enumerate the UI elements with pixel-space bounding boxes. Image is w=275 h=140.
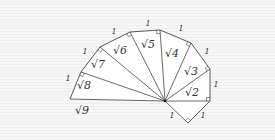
sqrt-label-3: √3 bbox=[184, 65, 198, 78]
sqrt-label-2: √2 bbox=[185, 86, 199, 99]
sqrt-label-7: √7 bbox=[91, 58, 105, 71]
spiral-of-theodorus-figure: √2√3√4√5√6√7√8√9111111111 bbox=[0, 0, 275, 140]
sqrt-label-8: √8 bbox=[77, 79, 91, 92]
unit-length-label-8: 1 bbox=[65, 74, 70, 83]
unit-length-label-3: 1 bbox=[204, 47, 209, 56]
unit-length-label-5: 1 bbox=[145, 19, 150, 28]
unit-length-label-1: 1 bbox=[200, 111, 205, 120]
unit-length-label-7: 1 bbox=[82, 47, 87, 56]
spiral-diagram: √2√3√4√5√6√7√8√9111111111 bbox=[0, 0, 275, 140]
unit-length-label-6: 1 bbox=[111, 27, 116, 36]
unit-length-label-4: 1 bbox=[178, 24, 183, 33]
sqrt-label-9: √9 bbox=[75, 104, 89, 117]
center-point bbox=[164, 100, 167, 103]
sqrt-label-6: √6 bbox=[113, 44, 127, 57]
sqrt-label-4: √4 bbox=[165, 47, 179, 60]
unit-length-label-0: 1 bbox=[169, 111, 174, 120]
sqrt-label-5: √5 bbox=[141, 38, 155, 51]
unit-length-label-2: 1 bbox=[213, 80, 218, 89]
